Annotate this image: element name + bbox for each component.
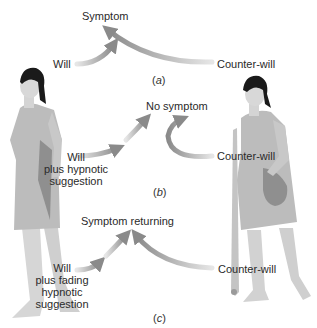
counter-will-label-c: Counter-will: [218, 263, 276, 275]
caption-a: (a): [152, 74, 165, 86]
caption-c: (c): [153, 312, 166, 324]
outcome-label-c: Symptom returning: [81, 215, 174, 227]
counter-will-arrow-c: [136, 235, 212, 268]
will-label-c: Will plus fading hypnotic suggestion: [22, 262, 102, 310]
will-arrow-a: [77, 44, 114, 64]
will-label-a: Will: [53, 58, 71, 70]
counter-will-label-b: Counter-will: [217, 150, 275, 162]
will-arrow-b2: [126, 119, 146, 140]
will-arrow-c2: [106, 235, 126, 256]
outcome-label-b: No symptom: [146, 100, 208, 112]
counter-will-arrow-a: [108, 30, 212, 62]
caption-b: (b): [153, 186, 166, 198]
outcome-label-a: Symptom: [82, 10, 128, 22]
counter-will-arrow-b: [168, 119, 212, 157]
counter-will-label-a: Counter-will: [217, 58, 275, 70]
will-label-b: Will plus hypnotic suggestion: [36, 151, 116, 187]
